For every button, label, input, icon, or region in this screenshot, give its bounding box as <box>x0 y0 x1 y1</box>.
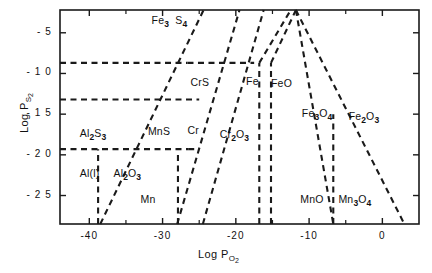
x-tick-label: -20 <box>206 230 266 241</box>
x-axis-title-index: 2 <box>235 257 239 264</box>
x-tick-label: -40 <box>59 230 119 241</box>
phase-region-label-al2s3: Al2S3 <box>80 127 106 142</box>
phase-region-label-fe3s4: Fe3 S4 <box>152 14 188 29</box>
phase-diagram-figure: Log PS2 Log PO2 - 5- 1 0- 1 5- 2 0- 2 5 … <box>0 0 432 273</box>
boundary-fe3o4-upper-diagonal <box>271 10 296 63</box>
phase-region-label-fe2o3: Fe2O3 <box>349 110 380 125</box>
y-tick-label: - 2 5 <box>8 189 52 200</box>
phase-region-label-mns: MnS <box>148 125 170 137</box>
boundary-mns-crs-diagonal <box>100 10 203 224</box>
phase-region-label-fe3o4: Fe3O4 <box>302 107 333 122</box>
y-axis-title-index: 2 <box>27 93 34 97</box>
phase-region-label-al2o3: Al2O3 <box>113 167 141 182</box>
y-tick-label: - 1 5 <box>8 107 52 118</box>
x-tick-label: -10 <box>279 230 339 241</box>
x-axis-title-main: Log P <box>198 248 229 260</box>
y-tick-label: - 5 <box>8 26 52 37</box>
phase-region-label-cr2o3: Cr2O3 <box>220 128 249 143</box>
phase-region-label-mn3o4: Mn3O4 <box>338 193 371 208</box>
phase-region-label-mno: MnO <box>300 193 323 205</box>
x-tick-label: 0 <box>352 230 412 241</box>
boundary-cr-fe-diagonal <box>177 10 239 224</box>
phase-region-label-al(l): Al(l) <box>80 167 100 179</box>
phase-region-label-crs: CrS <box>190 76 209 88</box>
y-tick-label: - 1 0 <box>8 66 52 77</box>
phase-region-label-fe: Fe <box>246 75 259 87</box>
boundary-feo-upper-diagonal <box>259 10 291 63</box>
x-tick-label: -30 <box>133 230 193 241</box>
phase-region-label-feo: FeO <box>271 77 292 89</box>
y-axis-title-element: S <box>24 97 33 102</box>
boundary-cr2o3-fe-diagonal <box>203 10 264 224</box>
phase-region-label-mn: Mn <box>141 193 156 205</box>
y-tick-label: - 2 0 <box>8 148 52 159</box>
x-axis-title: Log PO2 <box>198 248 239 264</box>
phase-region-label-cr: Cr <box>187 124 198 136</box>
